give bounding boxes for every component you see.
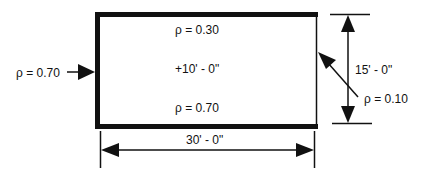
- height-arrow-up-icon: [341, 15, 355, 32]
- left-wall-arrow-icon: [67, 64, 95, 80]
- width-arrow-right-icon: [296, 143, 314, 157]
- room-diagram: ρ = 0.30 +10' - 0" ρ = 0.70 ρ = 0.70 ρ =…: [0, 0, 425, 177]
- right-wall-arrow-icon: [318, 52, 358, 97]
- width-dimension-label: 30' - 0": [186, 133, 223, 147]
- height-arrow-down-icon: [341, 106, 355, 123]
- left-wall-reflectance-label: ρ = 0.70: [16, 66, 60, 80]
- width-arrow-left-icon: [101, 143, 119, 157]
- work-plane-height-label: +10' - 0": [175, 62, 219, 76]
- floor-reflectance-label: ρ = 0.70: [175, 101, 219, 115]
- height-dimension-label: 15' - 0": [355, 63, 392, 77]
- right-wall-reflectance-label: ρ = 0.10: [364, 92, 408, 106]
- ceiling-reflectance-label: ρ = 0.30: [175, 23, 219, 37]
